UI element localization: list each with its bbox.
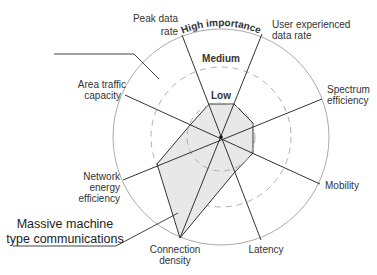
- axis-label-connection-1: Connection: [150, 244, 201, 255]
- callout-label-mmtc-1: Massive machine: [17, 217, 114, 231]
- mmtc-polygon: [157, 104, 253, 238]
- axis-label-ue-data-rate-2: data rate: [272, 30, 312, 41]
- center-point: [219, 135, 223, 139]
- axis-label-mobility: Mobility: [325, 180, 359, 191]
- axis-label-network-3: efficiency: [78, 193, 120, 204]
- axis-label-area-1: Area traffic: [78, 79, 126, 90]
- axis-label-network-2: energy: [89, 182, 120, 193]
- radar-chart: High importance Medium Low Peak data rat…: [0, 0, 377, 275]
- axis-label-ue-data-rate-1: User experienced: [272, 19, 350, 30]
- axis-label-connection-2: density: [159, 255, 191, 266]
- axis-label-network-1: Network: [83, 171, 121, 182]
- axis-label-spectrum-1: Spectrum: [327, 84, 370, 95]
- axis-label-peak-data-rate-2: rate: [161, 26, 179, 37]
- callout-line-top: [54, 54, 159, 79]
- axis-label-peak-data-rate-1: Peak data: [133, 13, 178, 24]
- level-medium-label: Medium: [202, 53, 240, 64]
- axis-label-spectrum-2: efficiency: [327, 95, 369, 106]
- level-low-label: Low: [211, 90, 231, 101]
- axis-label-area-2: capacity: [84, 90, 121, 101]
- callout-label-mmtc-2: type communications: [6, 232, 123, 246]
- axis-label-latency: Latency: [248, 244, 283, 255]
